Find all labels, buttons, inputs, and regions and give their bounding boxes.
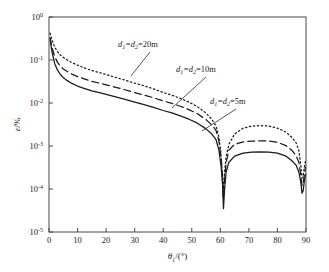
x-tick-label: 10	[73, 235, 82, 245]
x-tick-label: 20	[102, 235, 111, 245]
x-tick-label: 80	[273, 235, 282, 245]
x-tick-label: 70	[245, 235, 254, 245]
y-axis-title: ε/%	[12, 117, 22, 131]
x-tick-label: 50	[188, 235, 197, 245]
x-tick-label: 40	[159, 235, 168, 245]
x-tick-label: 60	[216, 235, 225, 245]
x-axis-title: θ1/(°)	[168, 251, 188, 263]
x-tick-label: 0	[47, 235, 51, 245]
figure-container: 010203040506070809010010-110-210-310-410…	[0, 0, 329, 272]
x-tick-label: 30	[130, 235, 139, 245]
log-line-chart: 010203040506070809010010-110-210-310-410…	[0, 0, 329, 272]
x-tick-label: 90	[302, 235, 311, 245]
